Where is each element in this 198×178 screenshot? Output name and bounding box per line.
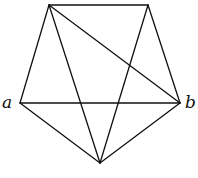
vertex-label-b: b [185,92,196,112]
edges [20,5,180,163]
edge-topright-b [148,5,180,103]
graph-diagram: a b [0,0,198,178]
edge-topright-bottom [100,5,148,163]
edge-topleft-b [49,5,180,103]
edge-a-bottom [20,103,100,163]
edge-topleft-a [20,5,49,103]
edge-b-bottom [100,103,180,163]
vertex-label-a: a [2,92,12,112]
edge-topleft-bottom [49,5,100,163]
